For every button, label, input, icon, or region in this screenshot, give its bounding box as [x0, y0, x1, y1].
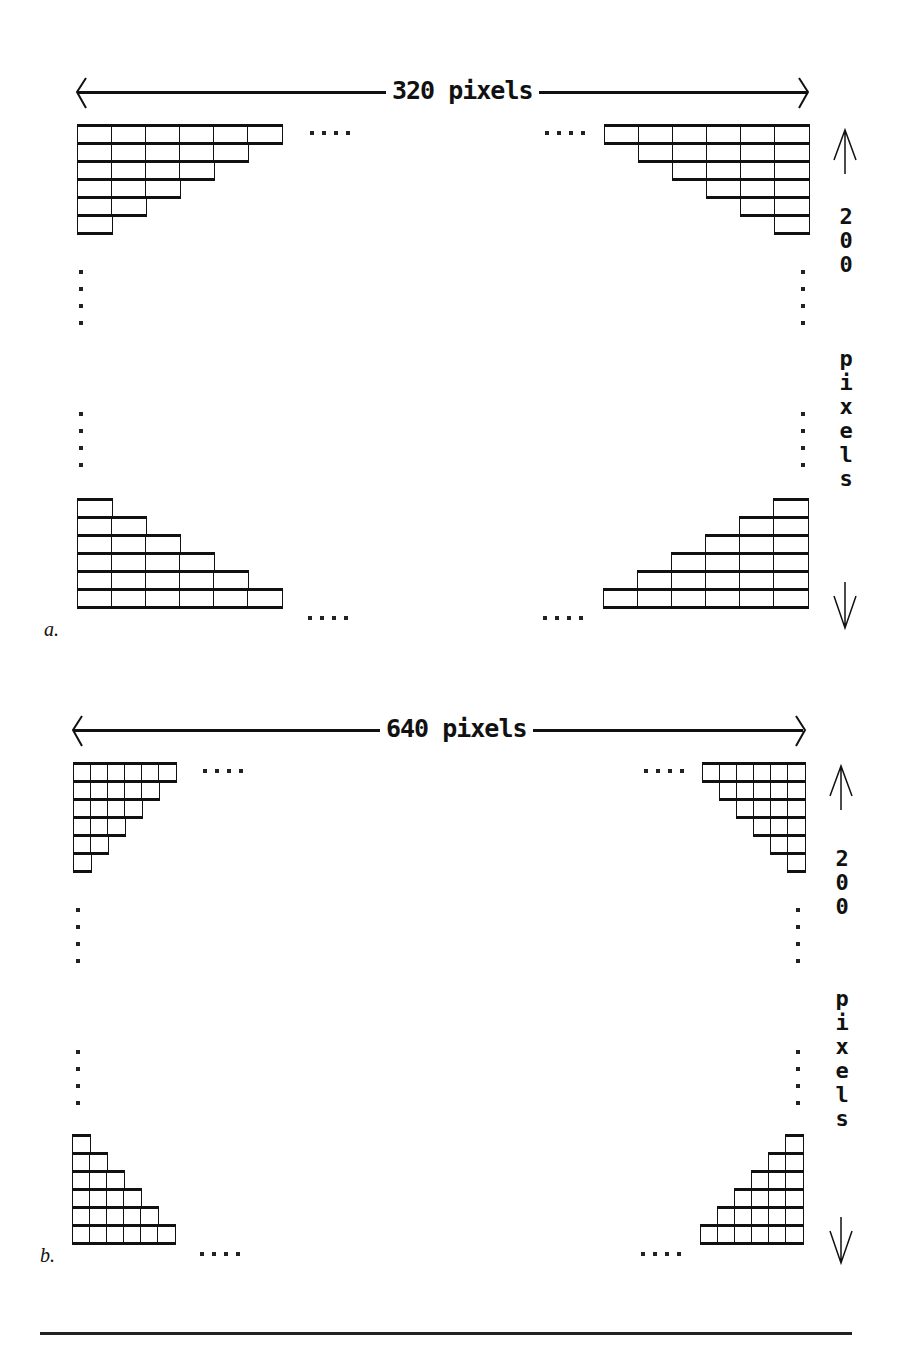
- pixel-cell: [111, 588, 147, 609]
- pixel-cell: [141, 780, 160, 801]
- ellipsis-left-upper-a: [78, 270, 84, 325]
- pixel-cell: [717, 1224, 736, 1245]
- ellipsis-right-upper-a: [800, 270, 806, 325]
- char: 0: [834, 230, 858, 254]
- arrow-up-icon: [830, 126, 860, 176]
- arrow-left-icon: [74, 76, 88, 110]
- ellipsis-bottom-right-b: [641, 1251, 681, 1257]
- char: x: [830, 1036, 854, 1060]
- pixel-cell: [179, 588, 215, 609]
- char: e: [830, 1060, 854, 1084]
- pixel-cell: [706, 178, 742, 199]
- pixel-cell: [700, 1224, 719, 1245]
- ellipsis-top-left-b: [203, 768, 243, 774]
- pixel-cell: [90, 834, 109, 855]
- pixel-cell: [106, 1224, 125, 1245]
- char: 0: [834, 254, 858, 278]
- arrow-right-icon: [794, 714, 808, 748]
- pixel-cell: [247, 588, 283, 609]
- char: 2: [834, 206, 858, 230]
- pixel-cell: [72, 1224, 91, 1245]
- char: i: [834, 372, 858, 396]
- pixel-cell: [604, 124, 640, 145]
- pixel-cell: [140, 1224, 159, 1245]
- char: p: [834, 348, 858, 372]
- char: l: [830, 1084, 854, 1108]
- pixel-cell: [736, 798, 755, 819]
- pixel-cell: [671, 588, 707, 609]
- arrow-left-icon: [70, 714, 84, 748]
- char: p: [830, 988, 854, 1012]
- pixel-cell: [787, 852, 806, 873]
- height-label-number-a: 2 0 0: [834, 206, 858, 278]
- pixel-cell: [785, 1224, 804, 1245]
- pixel-cell: [768, 1224, 787, 1245]
- ellipsis-bottom-left-a: [308, 615, 348, 621]
- ellipsis-top-right-b: [644, 768, 684, 774]
- ellipsis-bottom-right-a: [543, 615, 583, 621]
- char: l: [834, 444, 858, 468]
- panel-tag-b: b.: [40, 1244, 55, 1267]
- pixel-cell: [638, 142, 674, 163]
- pixel-cell: [734, 1224, 753, 1245]
- height-label-word-a: p i x e l s: [834, 348, 858, 492]
- pixel-cell: [637, 588, 673, 609]
- width-label-a: 320 pixels: [386, 76, 539, 106]
- arrow-up-icon: [826, 762, 856, 812]
- ellipsis-bottom-left-b: [200, 1251, 240, 1257]
- pixel-cell: [705, 588, 741, 609]
- char: s: [830, 1108, 854, 1132]
- char: 0: [830, 872, 854, 896]
- pixel-cell: [603, 588, 639, 609]
- pixel-cell: [179, 160, 215, 181]
- pixel-cell: [107, 816, 126, 837]
- pixel-cell: [247, 124, 283, 145]
- ellipsis-left-lower-a: [78, 412, 84, 467]
- char: 0: [830, 896, 854, 920]
- height-label-word-b: p i x e l s: [830, 988, 854, 1132]
- ellipsis-right-lower-a: [800, 412, 806, 467]
- pixel-cell: [77, 214, 113, 235]
- pixel-cell: [702, 762, 721, 783]
- pixel-cell: [77, 588, 113, 609]
- ellipsis-right-upper-b: [795, 908, 801, 963]
- char: s: [834, 468, 858, 492]
- page-rule: [40, 1332, 852, 1335]
- ellipsis-right-lower-b: [795, 1050, 801, 1105]
- width-label-b: 640 pixels: [380, 714, 533, 744]
- ellipsis-left-upper-b: [75, 908, 81, 963]
- pixel-cell: [123, 1224, 142, 1245]
- pixel-cell: [672, 160, 708, 181]
- pixel-cell: [157, 1224, 176, 1245]
- pixel-cell: [89, 1224, 108, 1245]
- pixel-cell: [158, 762, 177, 783]
- arrow-right-icon: [797, 76, 811, 110]
- pixel-cell: [213, 142, 249, 163]
- ellipsis-top-right-a: [545, 130, 585, 136]
- arrow-down-icon: [826, 1215, 856, 1267]
- pixel-cell: [739, 588, 775, 609]
- pixel-cell: [73, 852, 92, 873]
- pixel-cell: [111, 196, 147, 217]
- arrow-down-icon: [830, 580, 860, 632]
- pixel-cell: [751, 1224, 770, 1245]
- pixel-cell: [213, 588, 249, 609]
- char: x: [834, 396, 858, 420]
- pixel-cell: [740, 196, 776, 217]
- ellipsis-top-left-a: [310, 130, 350, 136]
- pixel-cell: [719, 780, 738, 801]
- char: e: [834, 420, 858, 444]
- height-label-number-b: 2 0 0: [830, 848, 854, 920]
- pixel-cell: [774, 214, 810, 235]
- pixel-cell: [145, 588, 181, 609]
- pixel-cell: [753, 816, 772, 837]
- panel-tag-a: a.: [44, 618, 59, 641]
- pixel-cell: [770, 834, 789, 855]
- pixel-cell: [145, 178, 181, 199]
- pixel-cell: [124, 798, 143, 819]
- ellipsis-left-lower-b: [75, 1050, 81, 1105]
- char: i: [830, 1012, 854, 1036]
- pixel-cell: [773, 588, 809, 609]
- char: 2: [830, 848, 854, 872]
